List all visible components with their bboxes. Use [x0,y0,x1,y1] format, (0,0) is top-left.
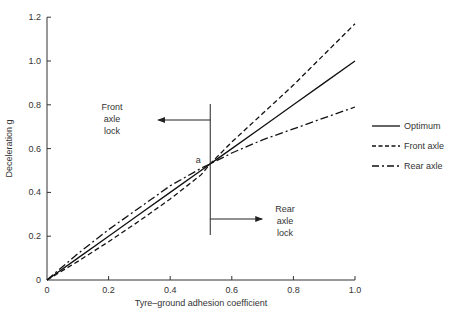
x-tick-label: 0.6 [226,285,239,295]
front-lock-label: Front [101,102,123,112]
y-tick-label: 0.8 [28,100,41,110]
x-tick-label: 0 [44,285,49,295]
chart: 00.20.40.60.81.01.200.20.40.60.81.0Tyre–… [0,0,456,323]
y-axis-label: Deceleration g [4,120,14,178]
front-lock-label: lock [104,126,121,136]
series-optimum [47,61,355,280]
x-tick-label: 0.8 [287,285,300,295]
x-tick-label: 1.0 [349,285,362,295]
x-tick-label: 0.2 [102,285,115,295]
y-tick-label: 0.2 [28,231,41,241]
point-a-label: a [196,155,201,165]
legend-label: Optimum [404,121,441,131]
front-lock-label: axle [104,114,121,124]
y-tick-label: 0.4 [28,187,41,197]
x-tick-label: 0.4 [164,285,177,295]
rear-lock-label: axle [277,216,294,226]
x-axis-label: Tyre–ground adhesion coefficient [135,298,268,308]
legend-label: Front axle [404,141,444,151]
rear-lock-label: lock [277,228,294,238]
y-tick-label: 0 [36,275,41,285]
legend-label: Rear axle [404,161,443,171]
rear-lock-label: Rear [275,204,295,214]
y-tick-label: 0.6 [28,144,41,154]
y-tick-label: 1.0 [28,56,41,66]
series-rear-axle [47,107,355,280]
y-tick-label: 1.2 [28,12,41,22]
